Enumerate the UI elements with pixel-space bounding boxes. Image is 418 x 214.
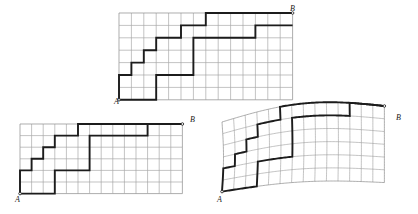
gridline-horizontal [222,181,384,192]
grid-svg-bottom-left [6,110,196,208]
endpoint-a [221,190,224,193]
panel-bottom-left-rectangular-grid [6,110,196,208]
node-label-b-top: B [290,5,295,13]
endpoint-b [383,105,386,108]
grid-svg-top [105,0,307,114]
panel-top-rectangular-grid [105,0,307,114]
node-label-b-bottom-right: B [396,114,401,122]
node-label-b-bottom-left: B [190,116,195,124]
grid-svg-bottom-right [208,108,398,206]
node-label-a-bottom-left: A [15,196,20,204]
lattice-path-figure: A B A B A B [0,0,418,214]
endpoint-b [181,123,184,126]
node-label-a-bottom-right: A [217,196,222,204]
panel-bottom-right-deformed-grid [208,108,398,206]
node-label-a-top: A [114,98,119,106]
